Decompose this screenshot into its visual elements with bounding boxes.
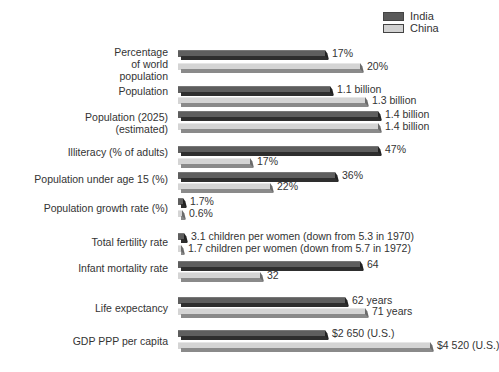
category-label-line: population [114, 70, 168, 82]
legend-item-china: China [383, 22, 439, 34]
bar-bottom [181, 189, 273, 193]
category-label: Population (2025)(estimated) [85, 111, 168, 135]
category-label-line: Illiteracy (% of adults) [68, 146, 168, 158]
category-label-line: Population [118, 85, 168, 97]
bar-bottom [181, 152, 381, 156]
value-label-india: 36% [342, 169, 363, 181]
value-label-china: $4 520 (U.S.) [437, 339, 499, 351]
category-label-line: Population growth rate (%) [44, 202, 168, 214]
category-label-line: Total fertility rate [92, 236, 168, 248]
value-label-india: 1.4 billion [385, 108, 429, 120]
value-label-india: 64 [367, 258, 379, 270]
legend-swatch-india [383, 12, 404, 21]
bar-india [178, 50, 325, 59]
bar-bottom [181, 92, 333, 96]
value-label-india: 3.1 children per women (down from 5.3 in… [191, 230, 414, 242]
bar-india [178, 86, 330, 95]
bar-bottom [181, 164, 253, 168]
category-label: Infant mortality rate [78, 262, 168, 274]
bar-china [178, 342, 430, 351]
bar-china [178, 272, 260, 281]
value-label-india: 1.7% [190, 195, 214, 207]
legend-swatch-china [383, 24, 404, 33]
category-label: Illiteracy (% of adults) [68, 146, 168, 158]
category-label-line: Population under age 15 (%) [34, 173, 168, 185]
category-label-line: (estimated) [85, 123, 168, 135]
bar-bottom [181, 314, 368, 318]
bar-bottom [181, 117, 381, 121]
category-label: Population under age 15 (%) [34, 173, 168, 185]
bar-china [178, 97, 365, 106]
bar-india [178, 198, 183, 207]
category-label: GDP PPP per capita [73, 335, 168, 347]
bar-india [178, 172, 335, 181]
category-label: Total fertility rate [92, 236, 168, 248]
bar-india [178, 330, 325, 339]
bar-india [178, 233, 184, 242]
bar-india [178, 297, 345, 306]
bar-china [178, 63, 360, 72]
category-label-line: Population (2025) [85, 111, 168, 123]
value-label-india: 47% [385, 143, 406, 155]
bar-bottom [181, 303, 348, 307]
value-label-china: 17% [257, 155, 278, 167]
category-label-line: Infant mortality rate [78, 262, 168, 274]
bar-india [178, 146, 378, 155]
value-label-india: 17% [332, 47, 353, 59]
value-label-india: $2 650 (U.S.) [332, 327, 394, 339]
category-label: Percentageof worldpopulation [114, 46, 168, 82]
bar-bottom [181, 336, 328, 340]
bar-bottom [181, 56, 328, 60]
value-label-china: 1.7 children per women (down from 5.7 in… [188, 242, 411, 254]
category-label-line: of world [114, 58, 168, 70]
bar-china [178, 245, 181, 254]
bar-china [178, 183, 270, 192]
value-label-china: 32 [267, 269, 279, 281]
bar-bottom [181, 278, 263, 282]
category-label: Population [118, 85, 168, 97]
category-label: Life expectancy [95, 302, 168, 314]
category-label-line: GDP PPP per capita [73, 335, 168, 347]
bar-china [178, 210, 182, 219]
value-label-china: 0.6% [189, 207, 213, 219]
legend-label-india: India [410, 10, 434, 22]
category-label-line: Life expectancy [95, 302, 168, 314]
value-label-china: 20% [367, 60, 388, 72]
legend-item-india: India [383, 10, 439, 22]
chart-legend: India China [383, 10, 439, 34]
bar-bottom [181, 129, 381, 133]
bar-bottom [181, 178, 338, 182]
bar-bottom [181, 348, 433, 352]
bar-bottom [181, 69, 363, 73]
value-label-china: 1.3 billion [372, 94, 416, 106]
bar-china [178, 158, 250, 167]
bar-india [178, 111, 378, 120]
category-label-line: Percentage [114, 46, 168, 58]
legend-label-china: China [410, 22, 439, 34]
category-label: Population growth rate (%) [44, 202, 168, 214]
value-label-china: 22% [277, 180, 298, 192]
bar-bottom [181, 103, 368, 107]
value-label-china: 71 years [372, 305, 412, 317]
value-label-china: 1.4 billion [385, 120, 429, 132]
bar-china [178, 123, 378, 132]
bar-china [178, 308, 365, 317]
